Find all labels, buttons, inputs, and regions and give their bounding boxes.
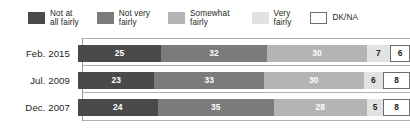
bar-segment-not-at-all-fairly: 23	[78, 72, 154, 89]
bar-segment-very-fairly: 5	[367, 99, 384, 116]
bar-segment-very-fairly: 7	[367, 45, 390, 62]
legend-item-not-very-fairly: Not very fairly	[97, 9, 150, 28]
bar-segment-not-very-fairly: 33	[154, 72, 264, 89]
legend-swatch-not-at-all-fairly	[28, 12, 45, 24]
gridline-mid-1	[82, 65, 410, 66]
bar-segment-not-very-fairly: 32	[161, 45, 267, 62]
bar-segment-somewhat-fairly: 30	[264, 72, 364, 89]
bar-segment-somewhat-fairly: 30	[267, 45, 367, 62]
legend-item-very-fairly: Very fairly	[252, 9, 292, 28]
row-label-feb-2015: Feb. 2015	[0, 48, 78, 59]
row-label-jul-2009: Jul. 2009	[0, 75, 78, 86]
legend-item-not-at-all-fairly: Not at all fairly	[28, 9, 79, 28]
table-row: Jul. 2009 23 33 30 6 8	[0, 72, 410, 89]
stacked-bar-jul-2009: 23 33 30 6 8	[78, 72, 410, 89]
legend-label-somewhat-fairly: Somewhat fairly	[190, 9, 229, 28]
legend-label-very-fairly: Very fairly	[274, 9, 292, 28]
legend-label-not-very-fairly: Not very fairly	[119, 9, 150, 28]
bar-segment-somewhat-fairly: 28	[274, 99, 367, 116]
legend-item-somewhat-fairly: Somewhat fairly	[168, 9, 229, 28]
bar-segment-dk-na: 6	[390, 45, 410, 62]
bar-segment-not-at-all-fairly: 25	[78, 45, 161, 62]
bar-segment-very-fairly: 6	[364, 72, 384, 89]
bar-segment-not-very-fairly: 35	[158, 99, 274, 116]
gridline-mid-2	[82, 92, 410, 93]
row-label-dec-2007: Dec. 2007	[0, 102, 78, 113]
legend-item-dk-na: DK/NA	[310, 12, 358, 24]
legend-swatch-dk-na	[310, 12, 327, 24]
table-row: Dec. 2007 24 35 28 5 8	[0, 99, 410, 116]
legend-swatch-very-fairly	[252, 12, 269, 24]
gridline-top	[82, 38, 410, 39]
legend-swatch-not-very-fairly	[97, 12, 114, 24]
legend-swatch-somewhat-fairly	[168, 12, 185, 24]
plot-area: Feb. 2015 25 32 30 7 6 Jul. 2009 23 33 3…	[0, 36, 410, 128]
stacked-bar-chart: Not at all fairly Not very fairly Somewh…	[0, 0, 410, 131]
table-row: Feb. 2015 25 32 30 7 6	[0, 45, 410, 62]
stacked-bar-feb-2015: 25 32 30 7 6	[78, 45, 410, 62]
bar-segment-dk-na: 8	[383, 72, 410, 89]
bar-segment-not-at-all-fairly: 24	[78, 99, 158, 116]
legend-label-not-at-all-fairly: Not at all fairly	[50, 9, 79, 28]
gridline-bottom	[82, 120, 410, 121]
stacked-bar-dec-2007: 24 35 28 5 8	[78, 99, 410, 116]
bar-segment-dk-na: 8	[383, 99, 410, 116]
legend-label-dk-na: DK/NA	[332, 13, 358, 22]
chart-legend: Not at all fairly Not very fairly Somewh…	[0, 4, 410, 32]
